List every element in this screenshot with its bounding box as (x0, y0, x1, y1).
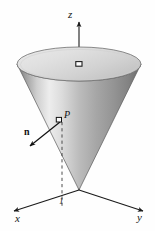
cone-lateral-surface (17, 64, 141, 190)
point-p-label: P (64, 110, 70, 120)
center-square-marker (76, 62, 82, 67)
point-p-marker (56, 117, 61, 122)
axis-disc-intersection-marker (76, 62, 82, 67)
cone-solid (17, 47, 141, 190)
axis-x-line (14, 190, 79, 211)
axis-x (14, 190, 79, 211)
axis-z-label: z (68, 9, 72, 20)
cone-normal-vector-figure: z x y P n 1 (0, 0, 155, 231)
figure-canvas (0, 0, 155, 231)
axis-y-line (79, 190, 143, 211)
point-p-square (56, 117, 61, 122)
axis-x-label: x (15, 213, 20, 224)
axis-y-label: y (137, 212, 142, 223)
tick-label-one: 1 (59, 197, 64, 206)
normal-vector-label: n (24, 127, 30, 137)
axis-y (79, 190, 143, 211)
